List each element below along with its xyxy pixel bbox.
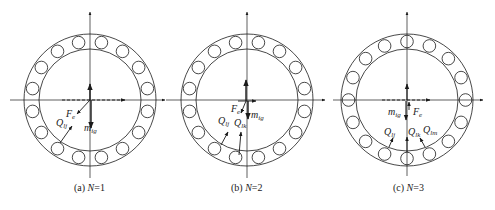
label-mg-c: mig	[388, 106, 401, 119]
rolling-ball	[423, 40, 436, 53]
label-q3-c: Qlm	[423, 124, 437, 137]
label-q1-c: Qlj	[384, 126, 395, 139]
rolling-ball	[26, 82, 39, 95]
rolling-ball	[229, 36, 242, 49]
label-q2-b: Qlk	[234, 117, 247, 130]
label-q1-b: Qlj	[218, 115, 229, 128]
rolling-ball	[116, 142, 129, 155]
centrifugal-force-arrow-b	[241, 101, 246, 113]
centrifugal-force-arrow-a	[77, 100, 90, 114]
rolling-ball	[347, 116, 360, 129]
rolling-ball	[252, 36, 265, 49]
rolling-ball	[132, 126, 145, 139]
rolling-ball	[229, 151, 242, 164]
contact-force-q2-arrow-b	[239, 132, 241, 155]
caption-a: (a) N=1	[74, 182, 105, 194]
rolling-ball	[423, 148, 436, 161]
rolling-ball	[72, 151, 85, 164]
label-mg-b: mig	[251, 109, 264, 122]
bearing-load-diagram: Fe Qlj mig (a) N=1 Fe Qlj Qlk mig (b) N=…	[0, 0, 495, 210]
rolling-ball	[183, 105, 196, 118]
contact-force-q1-arrow-b	[221, 132, 228, 145]
rolling-ball	[455, 116, 468, 129]
rolling-ball	[442, 52, 455, 65]
label-fe-c: Fe	[412, 106, 422, 119]
rolling-ball	[442, 135, 455, 148]
rolling-ball	[141, 105, 154, 118]
rolling-ball	[378, 40, 391, 53]
rolling-ball	[273, 142, 286, 155]
rolling-ball	[359, 52, 372, 65]
rolling-ball	[455, 71, 468, 84]
rolling-ball	[192, 61, 205, 74]
rolling-ball	[95, 151, 108, 164]
rolling-ball	[26, 105, 39, 118]
rolling-ball	[72, 36, 85, 49]
rolling-ball	[35, 61, 48, 74]
rolling-ball	[35, 126, 48, 139]
panel-c: Fe mig Qlj Qlk Qlm (c) N=3	[333, 12, 483, 194]
rolling-ball	[95, 36, 108, 49]
rolling-ball	[208, 45, 221, 58]
rolling-ball	[298, 82, 311, 95]
label-mg-a: mig	[84, 122, 97, 135]
rolling-ball	[378, 148, 391, 161]
rolling-ball	[51, 45, 64, 58]
label-q2-c: Qlk	[408, 126, 421, 139]
rolling-ball	[347, 71, 360, 84]
panel-b: Fe Qlj Qlk mig (b) N=2	[166, 12, 325, 194]
rolling-ball	[289, 126, 302, 139]
panel-a: Fe Qlj mig (a) N=1	[10, 12, 165, 194]
label-fe-a: Fe	[65, 108, 75, 121]
rolling-ball	[51, 142, 64, 155]
rolling-ball	[141, 82, 154, 95]
label-fe-b: Fe	[230, 103, 240, 116]
rolling-ball	[252, 151, 265, 164]
caption-c: (c) N=3	[393, 182, 424, 194]
rolling-ball	[116, 45, 129, 58]
contact-force-q3-arrow-c	[420, 138, 425, 147]
rolling-ball	[132, 61, 145, 74]
rolling-ball	[359, 135, 372, 148]
rolling-ball	[273, 45, 286, 58]
contact-force-q1-arrow-c	[389, 138, 393, 147]
caption-b: (b) N=2	[231, 182, 262, 194]
rolling-ball	[289, 61, 302, 74]
rolling-ball	[208, 142, 221, 155]
rolling-ball	[183, 82, 196, 95]
rolling-ball	[298, 105, 311, 118]
rolling-ball	[192, 126, 205, 139]
